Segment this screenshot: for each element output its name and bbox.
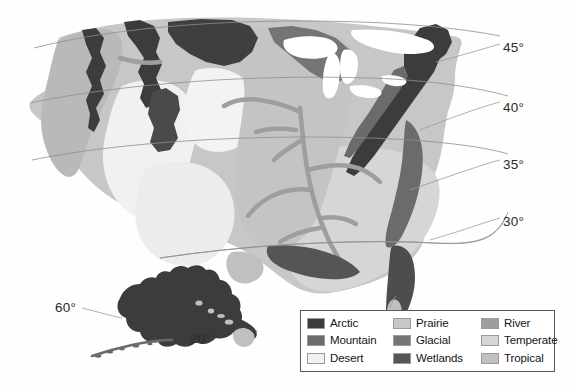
legend-item-desert[interactable]: Desert [307, 350, 393, 367]
legend-label-river: River [504, 318, 530, 330]
latitude-label-35: 35° [503, 157, 524, 172]
legend-label-mountain: Mountain [330, 335, 377, 347]
latitude-label-45: 45° [503, 40, 524, 55]
alaska-aleutian-islands [95, 343, 153, 358]
legend-swatch-mountain [307, 335, 325, 346]
hawaii-island-molokai [217, 314, 225, 318]
legend-label-glacial: Glacial [416, 335, 450, 347]
alaska-mainland [117, 265, 242, 347]
legend-label-desert: Desert [330, 353, 363, 365]
legend-label-wetlands: Wetlands [416, 353, 463, 365]
legend-item-wetlands[interactable]: Wetlands [393, 350, 481, 367]
map-legend: Arctic Prairie River Mountain Glacial [300, 310, 555, 372]
legend-item-tropical[interactable]: Tropical [481, 350, 562, 367]
climate-map-figure: 45° 40° 35° 30° 60° 20° Arctic Prairie R… [0, 0, 577, 387]
latitude-label-20: 20° [190, 331, 211, 346]
legend-swatch-tropical [481, 353, 499, 364]
hawaii-island-maui [225, 319, 233, 324]
legend-swatch-prairie [393, 318, 411, 329]
legend-item-river[interactable]: River [481, 315, 562, 332]
legend-swatch-temperate [481, 335, 499, 346]
legend-item-glacial[interactable]: Glacial [393, 332, 481, 349]
latitude-label-40: 40° [503, 100, 524, 115]
legend-item-arctic[interactable]: Arctic [307, 315, 393, 332]
legend-item-prairie[interactable]: Prairie [393, 315, 481, 332]
legend-swatch-wetlands [393, 353, 411, 364]
legend-grid: Arctic Prairie River Mountain Glacial [301, 311, 554, 371]
leader-line-60 [82, 308, 122, 318]
legend-item-temperate[interactable]: Temperate [481, 332, 562, 349]
leader-line-30 [430, 218, 500, 240]
latitude-label-30: 30° [503, 214, 524, 229]
legend-label-arctic: Arctic [330, 318, 358, 330]
legend-swatch-glacial [393, 335, 411, 346]
legend-swatch-arctic [307, 318, 325, 329]
hawaii-island-oahu [208, 309, 214, 314]
legend-label-tropical: Tropical [504, 353, 544, 365]
latitude-label-60: 60° [55, 300, 76, 315]
legend-swatch-desert [307, 353, 325, 364]
hawaii-island-kauai [195, 300, 202, 305]
legend-item-mountain[interactable]: Mountain [307, 332, 393, 349]
alaska-inset [92, 265, 257, 357]
legend-label-temperate: Temperate [504, 335, 557, 347]
legend-label-prairie: Prairie [416, 318, 449, 330]
legend-swatch-river [481, 318, 499, 329]
